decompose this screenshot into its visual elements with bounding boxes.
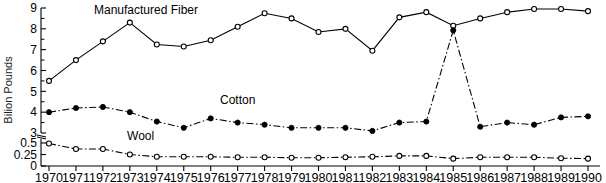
x-tick-label: 1973 [116,171,144,183]
series-label: Cotton [220,93,255,107]
data-point-marker [532,122,537,127]
x-tick-label: 1975 [170,171,198,183]
x-tick-label: 1985 [439,171,467,183]
data-point-marker [262,155,267,160]
data-point-marker [127,152,132,157]
data-point-marker [316,125,321,130]
data-point-marker [343,125,348,130]
series-cotton [46,28,590,134]
data-point-marker [532,155,537,160]
data-point-marker [505,155,510,160]
data-point-marker [127,20,132,25]
x-tick-label: 1984 [412,171,440,183]
x-tick-label: 1982 [358,171,386,183]
y-tick-label: 0.5 [20,136,37,150]
data-point-marker [451,156,456,161]
data-point-marker [478,16,483,21]
data-point-marker [370,48,375,53]
data-point-marker [424,10,429,15]
data-point-marker [559,7,564,12]
x-tick-label: 1983 [385,171,413,183]
series-line [49,30,588,131]
data-point-marker [73,105,78,110]
data-point-marker [397,153,402,158]
data-point-marker [100,146,105,151]
data-point-marker [262,11,267,16]
data-point-marker [289,125,294,130]
data-point-marker [316,155,321,160]
data-point-marker [397,15,402,20]
y-tick-label: 7 [30,43,37,57]
series-label: Wool [127,129,154,143]
y-tick-label: 6 [30,64,37,78]
x-tick-label: 1987 [493,171,521,183]
data-point-marker [235,24,240,29]
data-point-marker [47,141,52,146]
data-point-marker [100,104,105,109]
data-point-marker [505,120,510,125]
data-point-marker [208,116,213,121]
y-axis-title: Bilion Pounds [2,56,14,124]
chart-container: 345678900.250.51970197119721973197419751… [0,0,606,182]
data-point-marker [46,110,51,115]
data-point-marker [181,44,186,49]
x-tick-label: 1977 [224,171,252,183]
series-wool [47,141,591,161]
data-point-marker [154,42,159,47]
data-point-marker [532,7,537,12]
x-tick-label: 1989 [547,171,575,183]
x-tick-label: 1971 [62,171,90,183]
data-point-marker [208,154,213,159]
data-point-marker [154,119,159,124]
data-point-marker [478,155,483,160]
series-annotations: Manufactured FiberCottonWool [94,3,255,143]
data-point-marker [73,58,78,63]
series-label: Manufactured Fiber [94,3,198,17]
data-point-marker [235,155,240,160]
y-axis-break-icon [37,135,46,139]
y-tick-label: 8 [30,22,37,36]
data-point-marker [478,124,483,129]
data-point-marker [586,9,591,14]
data-point-marker [558,115,563,120]
data-point-marker [154,154,159,159]
x-tick-label: 1990 [574,171,602,183]
y-tick-label: 5 [30,85,37,99]
x-tick-label: 1974 [143,171,171,183]
y-tick-label: 4 [30,105,37,119]
data-point-marker [181,125,186,130]
data-point-marker [343,26,348,31]
series-manufactured-fiber [47,7,591,84]
x-tick-label: 1980 [305,171,333,183]
x-tick-label: 1970 [35,171,63,183]
data-point-marker [451,28,456,33]
data-point-marker [343,155,348,160]
data-point-marker [262,122,267,127]
data-point-marker [424,153,429,158]
textile-production-line-chart: 345678900.250.51970197119721973197419751… [0,0,606,182]
x-tick-label: 1979 [278,171,306,183]
data-point-marker [559,156,564,161]
data-point-marker [47,78,52,83]
x-tick-label: 1986 [466,171,494,183]
data-point-marker [100,39,105,44]
x-tick-label: 1976 [197,171,225,183]
data-point-marker [370,128,375,133]
data-point-marker [235,120,240,125]
data-point-marker [127,110,132,115]
x-tick-label: 1978 [251,171,279,183]
data-point-marker [73,146,78,151]
data-point-marker [289,155,294,160]
data-point-marker [370,154,375,159]
x-tick-label: 1988 [520,171,548,183]
x-tick-label: 1981 [332,171,360,183]
y-tick-label: 9 [30,1,37,15]
data-point-marker [586,156,591,161]
x-tick-label: 1972 [89,171,117,183]
data-point-marker [316,29,321,34]
data-point-marker [208,38,213,43]
data-point-marker [397,120,402,125]
x-axis-ticks: 1970197119721973197419751976197719781979… [35,166,602,182]
data-point-marker [181,154,186,159]
data-point-marker [505,10,510,15]
